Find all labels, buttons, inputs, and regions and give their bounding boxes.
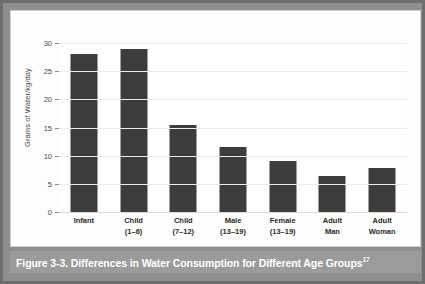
plot-area: 051015202530 <box>59 43 407 212</box>
category-label-line2: (13–19) <box>258 227 308 238</box>
category-label: Child(1–6) <box>109 216 159 237</box>
category-label-line2: (13–19) <box>208 227 258 238</box>
bar <box>70 54 97 212</box>
y-tick-label-25: 25 <box>44 67 52 76</box>
category-label: Infant <box>59 216 109 227</box>
gridline-30 <box>59 43 407 44</box>
bar-chart: Grams of Water/kg/day 051015202530 Infan… <box>11 11 420 246</box>
category-label-line1: Child <box>174 216 193 225</box>
category-label: Child(7–12) <box>158 216 208 237</box>
category-label-line1: Male <box>225 216 242 225</box>
category-label-line2: (7–12) <box>158 227 208 238</box>
category-label-line1: Female <box>270 216 296 225</box>
category-axis: InfantChild(1–6)Child(7–12)Male(13–19)Fe… <box>59 216 407 244</box>
gridline-15 <box>59 128 407 129</box>
y-tick-label-5: 5 <box>48 179 52 188</box>
figure-caption: Figure 3-3. Differences in Water Consump… <box>10 256 369 269</box>
figure-frame: Grams of Water/kg/day 051015202530 Infan… <box>0 0 425 284</box>
y-tick-mark-30 <box>55 43 59 44</box>
category-label-line1: Infant <box>74 216 94 225</box>
y-tick-mark-5 <box>55 184 59 185</box>
gridline-10 <box>59 156 407 157</box>
category-label: Female(13–19) <box>258 216 308 237</box>
category-label-line2: Woman <box>357 227 407 238</box>
y-tick-label-30: 30 <box>44 39 52 48</box>
gridline-5 <box>59 184 407 185</box>
figure-caption-reference: 17 <box>362 256 369 263</box>
category-label: AdultWoman <box>357 216 407 237</box>
bar <box>170 125 197 212</box>
category-label-line1: Child <box>124 216 143 225</box>
figure-panel: Grams of Water/kg/day 051015202530 Infan… <box>10 10 421 247</box>
gridline-0 <box>59 212 407 213</box>
y-tick-label-20: 20 <box>44 95 52 104</box>
y-tick-mark-0 <box>55 212 59 213</box>
category-label-line1: Adult <box>373 216 392 225</box>
category-label-line1: Adult <box>323 216 342 225</box>
category-label-line2: (1–6) <box>109 227 159 238</box>
bar <box>369 168 396 212</box>
gridline-20 <box>59 99 407 100</box>
y-tick-label-15: 15 <box>44 123 52 132</box>
figure-caption-label: Figure 3-3. Differences in Water Consump… <box>16 256 362 268</box>
bar <box>120 49 147 212</box>
y-tick-label-10: 10 <box>44 151 52 160</box>
y-tick-mark-25 <box>55 71 59 72</box>
y-tick-label-0: 0 <box>48 208 52 217</box>
y-tick-mark-20 <box>55 99 59 100</box>
category-label-line2: Man <box>308 227 358 238</box>
y-tick-mark-10 <box>55 156 59 157</box>
figure-caption-bar: Figure 3-3. Differences in Water Consump… <box>10 251 421 273</box>
y-tick-mark-15 <box>55 128 59 129</box>
category-label: AdultMan <box>308 216 358 237</box>
y-axis-title: Grams of Water/kg/day <box>23 48 32 168</box>
bar <box>319 176 346 212</box>
category-label: Male(13–19) <box>208 216 258 237</box>
bar <box>269 161 296 212</box>
gridline-25 <box>59 71 407 72</box>
